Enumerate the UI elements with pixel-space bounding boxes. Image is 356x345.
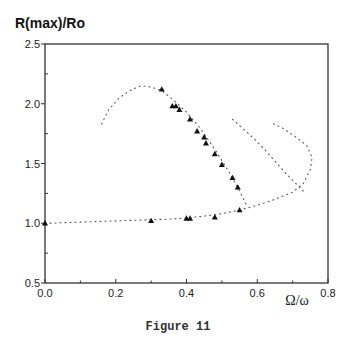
chart-plot: 0.00.20.40.60.80.51.01.52.02.5Ω/ω (0, 0, 356, 345)
triangle-marker-icon (194, 128, 200, 133)
y-tick-label: 2.0 (25, 98, 40, 110)
theory-dotted-curve (45, 123, 312, 223)
x-tick-label: 0.8 (320, 287, 335, 299)
triangle-marker-icon (235, 184, 241, 189)
y-tick-label: 1.0 (25, 217, 40, 229)
figure-caption: Figure 11 (0, 320, 356, 334)
triangle-marker-icon (203, 140, 209, 145)
x-tick-label: 0.4 (179, 287, 194, 299)
y-tick-label: 0.5 (25, 277, 40, 289)
triangle-marker-icon (201, 134, 207, 139)
theory-dotted-curve (233, 119, 304, 191)
triangle-marker-icon (159, 86, 165, 91)
triangle-marker-icon (148, 218, 154, 223)
plot-frame (45, 44, 328, 283)
triangle-marker-icon (229, 175, 235, 180)
triangle-marker-icon (237, 207, 243, 212)
x-tick-label: 0.2 (108, 287, 123, 299)
y-tick-label: 2.5 (25, 38, 40, 50)
y-tick-label: 1.5 (25, 158, 40, 170)
theory-dotted-curve (102, 86, 247, 206)
triangle-marker-icon (212, 214, 218, 219)
x-axis-label: Ω/ω (285, 293, 309, 308)
x-tick-label: 0.6 (250, 287, 265, 299)
